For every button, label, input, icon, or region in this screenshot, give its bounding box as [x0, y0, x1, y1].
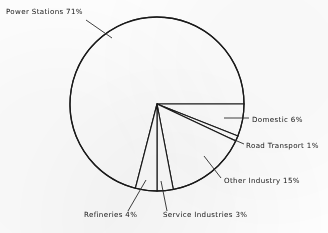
pie-wedges	[70, 17, 244, 191]
slice-label-other-industry: Other Industry 15%	[224, 176, 300, 185]
pie-chart-canvas: Power Stations 71% Domestic 6% Road Tran…	[0, 0, 328, 233]
slice-label-service-industries: Service Industries 3%	[163, 210, 247, 219]
leader-line-power-stations	[86, 20, 112, 38]
slice-label-refineries: Refineries 4%	[84, 210, 137, 219]
pie-chart-figure: Power Stations 71% Domestic 6% Road Tran…	[0, 0, 328, 233]
slice-label-domestic: Domestic 6%	[252, 115, 303, 124]
slice-label-road-transport: Road Transport 1%	[246, 141, 319, 150]
slice-label-power-stations: Power Stations 71%	[6, 7, 83, 16]
